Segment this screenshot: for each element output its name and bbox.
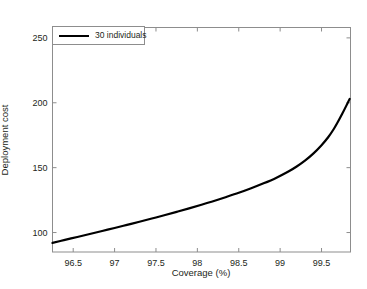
x-tick-label: 96.5 — [64, 259, 82, 268]
x-tick-label: 97 — [110, 259, 120, 268]
y-tick-label: 150 — [32, 163, 47, 172]
y-tick-label: 200 — [32, 98, 47, 107]
y-tick-label: 250 — [32, 33, 47, 42]
x-tick-label: 99.5 — [313, 259, 331, 268]
legend[interactable]: 30 individuals — [52, 26, 145, 45]
legend-entry-30-individuals: 30 individuals — [53, 27, 144, 44]
figure-canvas: 100150200250 96.59797.59898.59999.5 Depl… — [0, 0, 367, 289]
y-tick-label: 100 — [32, 228, 47, 237]
y-axis-title: Deployment cost — [0, 105, 10, 176]
plot-frame — [53, 28, 351, 253]
x-tick-label: 97.5 — [147, 259, 165, 268]
x-axis-title: Coverage (%) — [172, 267, 231, 278]
x-tick-label: 99 — [275, 259, 285, 268]
legend-line-swatch — [59, 35, 89, 37]
legend-label: 30 individuals — [95, 31, 147, 40]
x-tick-label: 98.5 — [230, 259, 248, 268]
